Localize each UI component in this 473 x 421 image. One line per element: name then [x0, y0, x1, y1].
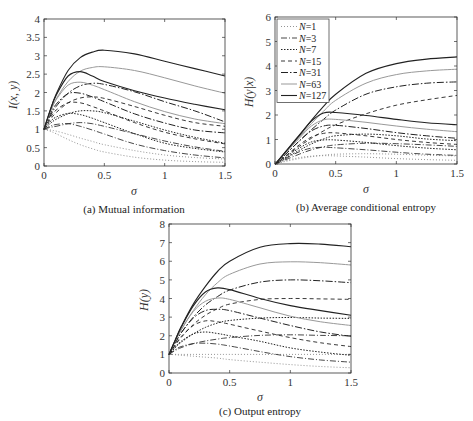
y-tick-label: 2.5 — [26, 68, 40, 80]
y-tick-label: 4 — [160, 293, 166, 305]
y-tick-label: 1 — [266, 134, 272, 146]
y-tick-label: 1 — [35, 123, 41, 135]
caption-a: (a) Mutual information — [83, 203, 185, 216]
x-tick-label: 0.5 — [97, 169, 111, 181]
series-line — [275, 154, 457, 164]
x-tick-label: 0 — [272, 167, 278, 179]
series-line — [169, 318, 351, 355]
legend-entry: N=63 — [298, 79, 321, 90]
x-axis-label-c: σ — [257, 390, 264, 404]
legend-entry: N=31 — [298, 67, 321, 78]
y-axis-label-c: H(y) — [137, 289, 151, 312]
panel-mutual-information: 00.511.500.511.522.533.54 σ I(x, y) (a) … — [6, 13, 232, 216]
y-tick-label: 0.5 — [26, 142, 40, 154]
series-line — [275, 147, 457, 164]
x-tick-label: 1 — [162, 169, 168, 181]
legend-entry: N=1 — [298, 21, 316, 32]
y-tick-label: 7 — [160, 237, 166, 249]
legend-b: N=1N=3N=7N=15N=31N=63N=127 — [277, 19, 329, 103]
panel-average-conditional-entropy: 00.511.50123456 N=1N=3N=7N=15N=31N=63N=1… — [242, 11, 464, 214]
series-line — [169, 343, 351, 362]
series-line — [44, 124, 225, 158]
series-line — [275, 140, 457, 164]
series-line — [44, 111, 225, 144]
y-tick-label: 3 — [35, 50, 41, 62]
series-line — [169, 335, 351, 355]
x-tick-label: 1.5 — [218, 169, 232, 181]
x-tick-label: 1 — [394, 167, 400, 179]
y-tick-label: 0 — [35, 160, 41, 172]
y-tick-label: 3 — [266, 85, 272, 97]
series-line — [44, 93, 225, 133]
legend-entry: N=7 — [298, 44, 316, 55]
y-axis-label-b: H(y|x) — [242, 77, 256, 109]
y-tick-label: 3.5 — [26, 31, 40, 43]
legend-entry: N=15 — [298, 56, 321, 67]
y-tick-label: 2 — [266, 109, 272, 121]
panel-output-entropy: 00.511.5012345678 σ H(y) (c) Output entr… — [137, 218, 358, 418]
x-tick-label: 0.5 — [223, 376, 237, 388]
y-tick-label: 3 — [160, 311, 166, 323]
y-tick-label: 6 — [266, 11, 272, 23]
y-tick-label: 6 — [160, 255, 166, 267]
x-axis-label-b: σ — [363, 182, 370, 196]
curves-c — [169, 243, 351, 367]
series-line — [44, 50, 225, 129]
y-tick-label: 2 — [35, 87, 41, 99]
y-tick-label: 5 — [266, 36, 272, 48]
x-tick-label: 1 — [288, 376, 294, 388]
series-line — [44, 123, 225, 152]
x-tick-label: 1.5 — [450, 167, 464, 179]
y-tick-label: 5 — [160, 274, 166, 286]
y-tick-label: 4 — [35, 13, 41, 25]
y-axis-label-a: I(x, y) — [6, 81, 20, 111]
y-tick-label: 1.5 — [26, 105, 40, 117]
series-line — [44, 129, 225, 162]
series-line — [169, 309, 351, 354]
caption-b: (b) Average conditional entropy — [296, 201, 436, 214]
x-tick-label: 0 — [166, 376, 172, 388]
legend-entry: N=3 — [298, 33, 316, 44]
figure-canvas: 00.511.500.511.522.533.54 σ I(x, y) (a) … — [0, 0, 473, 421]
y-tick-label: 0 — [160, 367, 166, 379]
caption-c: (c) Output entropy — [219, 405, 301, 418]
y-tick-label: 8 — [160, 218, 166, 230]
series-line — [275, 119, 457, 164]
legend-entry: N=127 — [298, 90, 326, 101]
x-tick-label: 0 — [41, 169, 47, 181]
series-line — [169, 288, 351, 355]
series-line — [44, 72, 225, 130]
series-line — [169, 321, 351, 355]
y-tick-label: 0 — [266, 158, 272, 170]
y-tick-label: 1 — [160, 348, 166, 360]
curves-a — [44, 50, 225, 162]
x-tick-label: 0.5 — [329, 167, 343, 179]
x-tick-label: 1.5 — [344, 376, 358, 388]
series-line — [169, 354, 351, 367]
series-line — [275, 134, 457, 164]
y-tick-label: 4 — [266, 60, 272, 72]
x-axis-label-a: σ — [131, 184, 138, 198]
series-line — [275, 156, 457, 164]
series-line — [275, 143, 457, 164]
y-tick-label: 2 — [160, 330, 166, 342]
